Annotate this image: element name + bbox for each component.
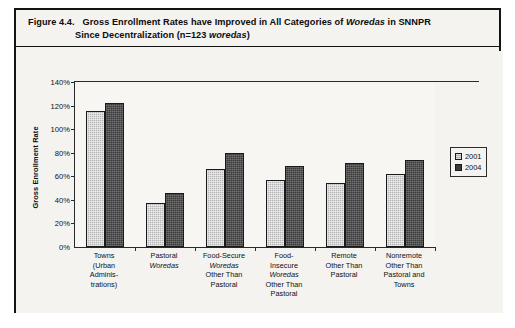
x-category-label-5: RemoteOther ThanPastoral	[314, 251, 374, 280]
x-category-label-line: Other Than	[254, 280, 314, 290]
bar-2004-group-5[interactable]	[345, 163, 364, 247]
bar-pair	[386, 82, 424, 247]
bar-pair	[146, 82, 184, 247]
figure-frame: Figure 4.4.Gross Enrollment Rates have I…	[14, 8, 501, 313]
x-category-label-line: Pastoral	[254, 289, 314, 299]
bar-group-6	[375, 82, 435, 247]
legend-swatch-2001-icon	[455, 153, 462, 160]
x-axis-category-labels: Towns(UrbanAdminis-trations)PastoralWore…	[74, 251, 434, 311]
x-category-label-line: Woredas	[134, 261, 194, 271]
bar-group-2	[135, 82, 195, 247]
bar-group-5	[315, 82, 375, 247]
x-category-label-line: Towns	[74, 251, 134, 261]
x-category-label-1: Towns(UrbanAdminis-trations)	[74, 251, 134, 289]
caption-line-2-text-a: Since Decentralization (n=123	[75, 30, 209, 40]
bar-pair	[86, 82, 124, 247]
legend-label-2004: 2004	[465, 163, 481, 172]
y-tick-label-20pct: 20%	[30, 219, 70, 228]
x-category-label-line: Pastoral	[194, 280, 254, 290]
y-tick-label-100pct: 100%	[30, 125, 70, 134]
x-category-label-line: Other Than	[314, 261, 374, 271]
x-category-label-line: Adminis-	[74, 270, 134, 280]
x-category-label-line: Pastoral	[134, 251, 194, 261]
figure-caption: Figure 4.4.Gross Enrollment Rates have I…	[16, 10, 499, 47]
x-category-label-line: Other Than	[374, 261, 434, 271]
bar-2001-group-3[interactable]	[206, 169, 225, 247]
caption-line-1: Figure 4.4.Gross Enrollment Rates have I…	[28, 16, 489, 29]
bar-2001-group-5[interactable]	[326, 183, 345, 247]
plot-area	[74, 82, 435, 248]
bar-group-3	[195, 82, 255, 247]
x-category-label-6: NonremoteOther ThanPastoral andTowns	[374, 251, 434, 289]
x-category-label-4: Food-InsecureWoredasOther ThanPastoral	[254, 251, 314, 299]
caption-line-2-text-b: )	[247, 30, 250, 40]
bar-2004-group-6[interactable]	[405, 160, 424, 247]
y-tick-label-0pct: 0%	[30, 243, 70, 252]
x-category-label-line: Food-	[254, 251, 314, 261]
x-category-label-line: Pastoral	[314, 270, 374, 280]
x-category-label-line: Nonremote	[374, 251, 434, 261]
bar-2004-group-4[interactable]	[285, 166, 304, 247]
bar-2001-group-2[interactable]	[146, 203, 165, 247]
bar-2001-group-6[interactable]	[386, 174, 405, 247]
x-category-label-line: trations)	[74, 280, 134, 290]
x-category-label-line: (Urban	[74, 261, 134, 271]
bar-2001-group-1[interactable]	[86, 111, 105, 247]
y-axis-tick-labels: 0%20%40%60%80%100%120%140%	[30, 82, 70, 247]
x-category-label-line: Remote	[314, 251, 374, 261]
caption-line-1-text-b: in SNNPR	[385, 17, 431, 27]
caption-line-1-text-a: Gross Enrollment Rates have Improved in …	[83, 17, 346, 27]
y-tick-label-140pct: 140%	[30, 78, 70, 87]
bar-pair	[206, 82, 244, 247]
bar-pair	[326, 82, 364, 247]
bar-pair	[266, 82, 304, 247]
bar-2004-group-3[interactable]	[225, 153, 244, 247]
figure-number: Figure 4.4.	[28, 17, 75, 27]
x-category-label-3: Food-SecureWoredasOther ThanPastoral	[194, 251, 254, 289]
x-category-label-2: PastoralWoredas	[134, 251, 194, 270]
legend-label-2001: 2001	[465, 152, 481, 161]
caption-line-2: Since Decentralization (n=123 woredas)	[28, 29, 489, 42]
x-category-label-line: Woredas	[194, 261, 254, 271]
legend-swatch-2004-icon	[455, 164, 462, 171]
x-category-label-line: Insecure	[254, 261, 314, 271]
caption-line-2-italic: woredas	[209, 30, 247, 40]
chart-legend: 2001 2004	[450, 147, 487, 177]
x-category-label-line: Woredas	[254, 270, 314, 280]
bar-2001-group-4[interactable]	[266, 180, 285, 247]
x-category-label-line: Pastoral and	[374, 270, 434, 280]
legend-item-2001: 2001	[455, 151, 481, 162]
bar-2004-group-1[interactable]	[105, 103, 124, 247]
caption-line-1-italic: Woredas	[346, 17, 385, 27]
x-tick-mark	[435, 247, 436, 251]
bar-2004-group-2[interactable]	[165, 193, 184, 247]
legend-item-2004: 2004	[455, 162, 481, 173]
y-tick-label-40pct: 40%	[30, 195, 70, 204]
y-tick-label-80pct: 80%	[30, 148, 70, 157]
x-category-label-line: Towns	[374, 280, 434, 290]
bar-group-1	[75, 82, 135, 247]
chart-body: Gross Enrollment Rate 0%20%40%60%80%100%…	[16, 51, 503, 313]
x-category-label-line: Other Than	[194, 270, 254, 280]
y-tick-label-120pct: 120%	[30, 101, 70, 110]
x-category-label-line: Food-Secure	[194, 251, 254, 261]
y-tick-label-60pct: 60%	[30, 172, 70, 181]
bar-group-4	[255, 82, 315, 247]
